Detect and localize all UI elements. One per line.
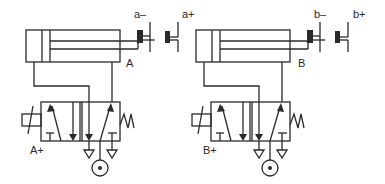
limit-switch-a-minus-label: a– xyxy=(134,9,146,20)
limit-switch-b-plus-label: b+ xyxy=(353,9,366,20)
valve-a-signal-label: A+ xyxy=(30,145,44,156)
cylinder-a-label: A xyxy=(126,58,133,69)
cylinder-b-label: B xyxy=(298,58,305,69)
valve-b-signal-label: B+ xyxy=(203,145,217,156)
pneumatic-circuit-diagram xyxy=(0,0,385,184)
limit-switch-a-plus-label: a+ xyxy=(182,9,195,20)
limit-switch-b-minus-label: b– xyxy=(314,9,326,20)
circuit-a xyxy=(22,22,178,176)
